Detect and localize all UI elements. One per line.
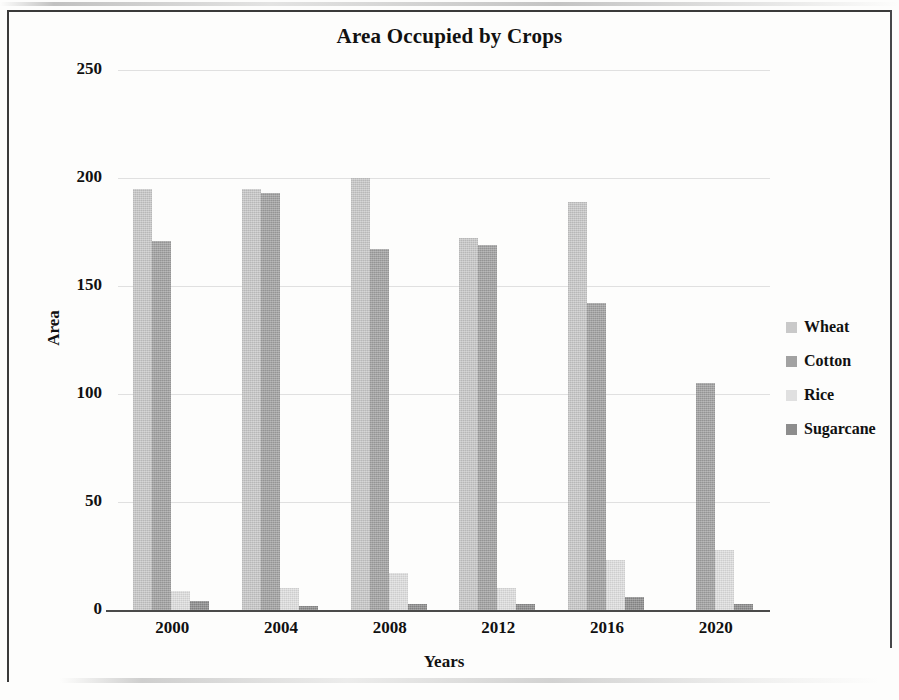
- bar-cotton: [587, 303, 606, 610]
- plot-area: [118, 70, 770, 610]
- legend-swatch-icon: [786, 424, 797, 435]
- y-tick-label: 0: [30, 599, 102, 619]
- legend-swatch-icon: [786, 356, 797, 367]
- bar-rice: [715, 550, 734, 610]
- bar-wheat: [568, 202, 587, 610]
- bar-group: [242, 70, 320, 610]
- x-axis-title: Years: [118, 652, 770, 672]
- scan-artifact-top: [0, 2, 899, 6]
- gridline: [118, 70, 770, 71]
- x-tick-label: 2004: [222, 618, 340, 638]
- legend-swatch-icon: [786, 390, 797, 401]
- x-tick-label: 2016: [548, 618, 666, 638]
- bar-rice: [497, 588, 516, 610]
- legend-label: Sugarcane: [804, 420, 876, 438]
- legend-item: Sugarcane: [786, 412, 896, 446]
- chart-page: Area Occupied by Crops Area Years 050100…: [0, 0, 899, 700]
- x-axis-line: [106, 610, 770, 612]
- bar-cotton: [152, 241, 171, 610]
- bar-sugarcane: [625, 597, 644, 610]
- y-tick-label: 150: [30, 275, 102, 295]
- bar-cotton: [261, 193, 280, 610]
- legend-label: Wheat: [804, 318, 849, 336]
- bar-sugarcane: [190, 601, 209, 610]
- bar-wheat: [242, 189, 261, 610]
- bar-group: [459, 70, 537, 610]
- x-tick-label: 2012: [439, 618, 557, 638]
- bar-group: [351, 70, 429, 610]
- y-tick-label: 100: [30, 383, 102, 403]
- x-tick-label: 2020: [657, 618, 775, 638]
- gridline: [118, 286, 770, 287]
- bar-group: [677, 70, 755, 610]
- chart-title: Area Occupied by Crops: [0, 24, 899, 49]
- y-tick-label: 50: [30, 491, 102, 511]
- y-tick-label: 200: [30, 167, 102, 187]
- bar-wheat: [133, 189, 152, 610]
- bar-rice: [171, 591, 190, 610]
- x-tick-label: 2000: [113, 618, 231, 638]
- legend: WheatCottonRiceSugarcane: [786, 310, 896, 446]
- bar-rice: [606, 560, 625, 610]
- bar-cotton: [370, 249, 389, 610]
- legend-swatch-icon: [786, 322, 797, 333]
- gridline: [118, 394, 770, 395]
- bar-cotton: [696, 383, 715, 610]
- bar-rice: [280, 588, 299, 610]
- gridline: [118, 502, 770, 503]
- legend-item: Wheat: [786, 310, 896, 344]
- y-tick-label: 250: [30, 59, 102, 79]
- bar-group: [133, 70, 211, 610]
- gridline: [118, 178, 770, 179]
- bar-cotton: [478, 245, 497, 610]
- bar-rice: [389, 573, 408, 610]
- scan-artifact-bottom: [60, 678, 880, 683]
- page-border-left: [7, 10, 9, 682]
- page-border-top: [7, 10, 892, 12]
- legend-item: Cotton: [786, 344, 896, 378]
- bar-wheat: [459, 238, 478, 610]
- bar-wheat: [351, 178, 370, 610]
- legend-label: Cotton: [804, 352, 851, 370]
- bar-group: [568, 70, 646, 610]
- x-tick-label: 2008: [331, 618, 449, 638]
- legend-item: Rice: [786, 378, 896, 412]
- legend-label: Rice: [804, 386, 834, 404]
